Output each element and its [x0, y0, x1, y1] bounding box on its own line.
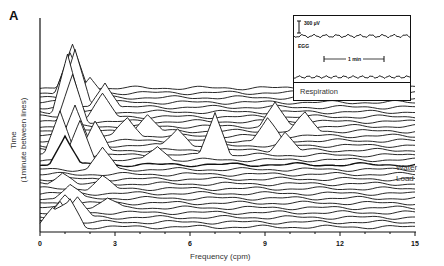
panel-label: A	[9, 8, 18, 23]
load-label: Load	[396, 173, 414, 184]
time-scale-label: 1 min	[346, 56, 363, 62]
x-tick-label: 12	[336, 240, 344, 247]
x-tick-label: 15	[411, 240, 419, 247]
x-axis-label: Frequency (cpm)	[190, 252, 250, 261]
y-axis-label: Time (1minute between lines)	[9, 85, 29, 195]
egg-waveform	[294, 34, 410, 37]
respiration-label: Respiration	[300, 87, 338, 96]
x-tick-label: 6	[188, 240, 192, 247]
signal-inset: 300 µV EGG 1 min Respiration	[293, 15, 411, 101]
water-label: Water	[396, 162, 417, 173]
x-axis-ticks	[40, 232, 415, 236]
egg-label: EGG	[298, 43, 309, 49]
x-tick-label: 3	[113, 240, 117, 247]
x-tick-label: 0	[38, 240, 42, 247]
respiration-waveform	[294, 76, 410, 79]
amplitude-scale-label: 300 µV	[304, 20, 320, 26]
inset-divider	[294, 82, 410, 83]
x-tick-label: 9	[263, 240, 267, 247]
y-axis-label-line1: Time	[9, 85, 19, 195]
y-axis-label-line2: (1minute between lines)	[19, 85, 29, 195]
